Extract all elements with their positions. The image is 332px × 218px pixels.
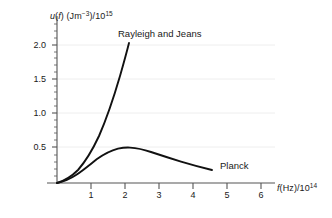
axis-lines bbox=[47, 16, 275, 183]
x-axis-major-ticks bbox=[91, 183, 261, 189]
y-axis-title: u(f) (Jm−3)/1015 bbox=[50, 11, 113, 21]
series-label-rayleigh-jeans: Rayleigh and Jeans bbox=[118, 28, 201, 39]
curve-planck bbox=[57, 148, 212, 183]
planck-rayleigh-jeans-chart: u(f) (Jm−3)/1015 f(Hz)/1014 2.0 1.5 1.0 … bbox=[0, 0, 332, 218]
x-tick-label-6: 6 bbox=[254, 190, 268, 200]
y-tick-label-1-0: 1.0 bbox=[22, 108, 46, 118]
x-tick-label-1: 1 bbox=[84, 190, 98, 200]
y-tick-label-1-5: 1.5 bbox=[22, 74, 46, 84]
y-tick-label-0-5: 0.5 bbox=[22, 142, 46, 152]
x-tick-label-4: 4 bbox=[186, 190, 200, 200]
y-tick-label-2-0: 2.0 bbox=[22, 40, 46, 50]
series-label-planck: Planck bbox=[220, 160, 249, 171]
gridlines bbox=[57, 45, 275, 147]
x-tick-label-5: 5 bbox=[220, 190, 234, 200]
y-axis-major-ticks bbox=[52, 45, 57, 147]
x-axis-title: f(Hz)/1014 bbox=[277, 183, 317, 193]
x-tick-label-2: 2 bbox=[118, 190, 132, 200]
x-tick-label-3: 3 bbox=[152, 190, 166, 200]
